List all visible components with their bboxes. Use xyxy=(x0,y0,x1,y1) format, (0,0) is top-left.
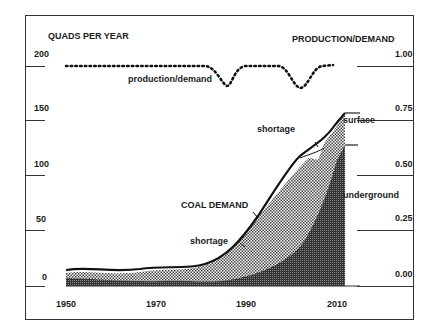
underground-annotation: underground xyxy=(343,190,399,200)
right-tick-label: 0.50 xyxy=(395,159,413,169)
tick-left-150 xyxy=(26,120,45,121)
tick-left-50 xyxy=(26,230,45,231)
shortage-lower-annotation: shortage xyxy=(190,236,228,246)
tick-right-050 xyxy=(357,175,413,176)
x-tick-label: 2010 xyxy=(327,299,347,309)
left-tick-label: 150 xyxy=(34,103,49,113)
chart-plot xyxy=(0,0,438,335)
x-tick-label: 1970 xyxy=(146,299,166,309)
tick-left-200 xyxy=(26,66,45,67)
tick-right-025 xyxy=(357,230,413,231)
x-tick-label: 1950 xyxy=(56,299,76,309)
right-tick-label: 0.00 xyxy=(395,269,413,279)
tick-right-100 xyxy=(357,66,413,67)
right-axis-title: PRODUCTION/DEMAND xyxy=(292,34,395,44)
tick-left-100 xyxy=(26,175,45,176)
surface-annotation: surface xyxy=(343,115,375,125)
left-tick-label: 50 xyxy=(36,214,46,224)
left-axis-title: QUADS PER YEAR xyxy=(48,31,129,41)
left-tick-label: 200 xyxy=(34,49,49,59)
production-demand-annotation: production/demand xyxy=(128,74,212,84)
right-tick-label: 0.25 xyxy=(395,213,413,223)
tick-right-000 xyxy=(357,286,413,287)
left-tick-label: 100 xyxy=(34,159,49,169)
shortage-upper-annotation: shortage xyxy=(257,124,295,134)
left-tick-label: 0 xyxy=(42,272,47,282)
coal-demand-annotation: COAL DEMAND xyxy=(181,200,248,210)
right-tick-label: 0.75 xyxy=(395,103,413,113)
x-tick-label: 1990 xyxy=(236,299,256,309)
right-tick-label: 1.00 xyxy=(395,49,413,59)
tick-left-0 xyxy=(26,286,45,287)
